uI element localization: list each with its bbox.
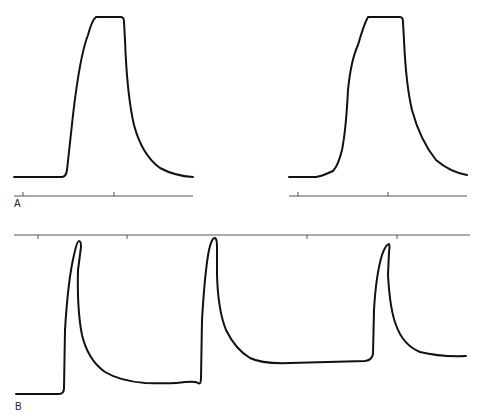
panel-a-right-trace <box>289 17 467 196</box>
panel-a-left-trace <box>14 17 193 196</box>
panel-label-b: B <box>15 401 22 412</box>
panel-label-a: A <box>14 198 21 209</box>
figure-canvas <box>0 0 477 415</box>
panel-b-trace <box>14 235 470 394</box>
